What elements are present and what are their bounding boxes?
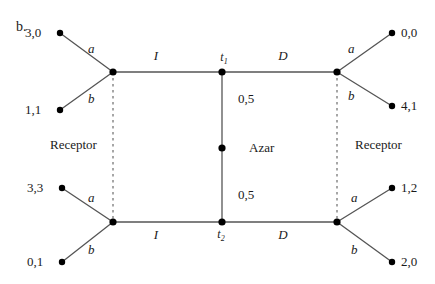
- action-label-top-left-upper: a: [88, 42, 95, 55]
- node-chance-azar: [218, 144, 225, 151]
- edge-top-left-upper: [60, 33, 113, 72]
- payoff-bottom-right-lower: 2,0: [401, 255, 417, 268]
- edge-bottom-right-lower: [337, 222, 392, 262]
- payoff-bottom-left-upper: 3,3: [27, 181, 43, 194]
- signaling-game-tree-figure: b. 3,0 1,1 0,0 4,1 3,3 0,1 1,2 2,0 a b a…: [0, 0, 435, 284]
- player-label-left-receptor: Receptor: [50, 138, 97, 151]
- edge-top-left-lower: [60, 72, 113, 110]
- terminal-bottom-right-lower: [389, 259, 395, 265]
- probability-top: 0,5: [238, 92, 254, 105]
- payoff-bottom-right-upper: 1,2: [401, 181, 417, 194]
- action-label-top-right-lower: b: [348, 89, 355, 102]
- node-top-left-decision: [109, 68, 116, 75]
- terminal-bottom-right-upper: [389, 185, 395, 191]
- action-label-bottom-right-upper: a: [351, 191, 358, 204]
- message-label-bottom-right: D: [278, 228, 287, 241]
- action-label-top-right-upper: a: [348, 42, 355, 55]
- solid-edges: [60, 33, 392, 262]
- probability-bottom: 0,5: [238, 188, 254, 201]
- action-label-bottom-right-lower: b: [351, 243, 358, 256]
- node-bottom-left-decision: [109, 218, 116, 225]
- player-label-right-receptor: Receptor: [355, 138, 402, 151]
- terminal-bottom-left-upper: [59, 185, 65, 191]
- action-label-bottom-left-upper: a: [88, 191, 95, 204]
- payoff-top-right-lower: 4,1: [401, 99, 417, 112]
- action-label-bottom-left-lower: b: [88, 243, 95, 256]
- payoff-top-left-lower: 1,1: [25, 103, 41, 116]
- node-bottom-right-decision: [333, 218, 340, 225]
- node-type-t2: [218, 218, 225, 225]
- payoff-top-right-upper: 0,0: [401, 26, 417, 39]
- player-label-chance-azar: Azar: [249, 141, 274, 154]
- terminal-bottom-left-lower: [59, 259, 65, 265]
- terminal-top-right-lower: [389, 103, 395, 109]
- node-type-t1: [218, 68, 225, 75]
- payoff-bottom-left-lower: 0,1: [27, 255, 43, 268]
- message-label-bottom-left: I: [154, 228, 158, 241]
- message-label-top-right: D: [278, 49, 287, 62]
- action-label-top-left-lower: b: [88, 92, 95, 105]
- terminal-top-right-upper: [389, 30, 395, 36]
- terminal-top-left-lower: [57, 107, 63, 113]
- type-node-subscript-t1: 1: [224, 57, 228, 66]
- terminal-top-left-upper: [57, 30, 63, 36]
- message-label-top-left: I: [154, 49, 158, 62]
- edge-bottom-right-upper: [337, 188, 392, 222]
- type-node-label-t1: t1: [220, 51, 227, 66]
- edge-top-right-lower: [337, 72, 392, 106]
- type-node-label-t2: t2: [217, 228, 224, 243]
- edge-top-right-upper: [337, 33, 392, 72]
- type-node-subscript-t2: 2: [221, 234, 225, 243]
- payoff-top-left-upper: 3,0: [25, 26, 41, 39]
- node-top-right-decision: [333, 68, 340, 75]
